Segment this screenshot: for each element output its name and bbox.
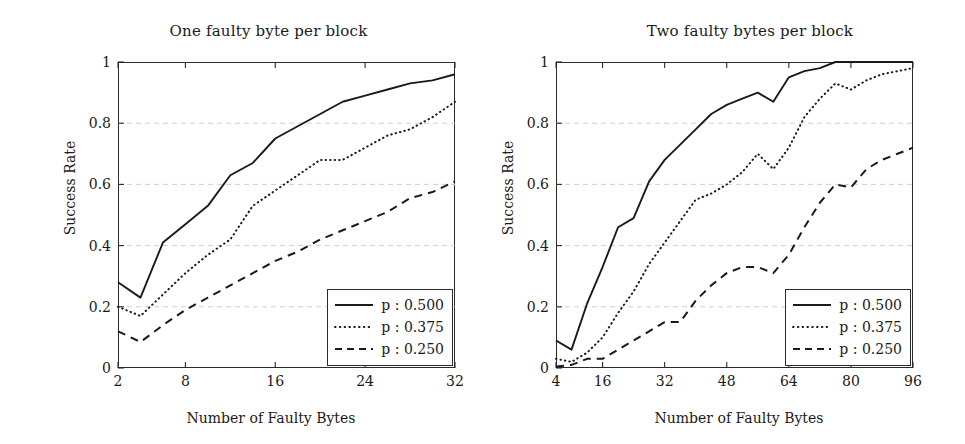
- legend-label: p : 0.500: [381, 297, 444, 313]
- y-tick-label: 1: [102, 54, 111, 70]
- legend-item: p : 0.375: [334, 316, 444, 338]
- legend-item: p : 0.500: [334, 294, 444, 316]
- y-tick-label: 0: [102, 360, 111, 376]
- legend-label: p : 0.375: [839, 319, 902, 335]
- legend-label: p : 0.250: [839, 341, 902, 357]
- x-tick-label: 8: [181, 373, 190, 389]
- x-tick-label: 16: [594, 373, 612, 389]
- x-tick-label: 16: [266, 373, 284, 389]
- y-tick-label: 0.2: [527, 299, 549, 315]
- y-tick-label: 0.8: [527, 115, 549, 131]
- y-axis-label: Success Rate: [62, 108, 78, 268]
- gridlines: [556, 123, 913, 307]
- plot-area: 00.20.40.60.81 4163248648096 p : 0.500 p…: [556, 62, 913, 368]
- y-tick-label: 0.2: [89, 299, 111, 315]
- y-tick-label: 0: [540, 360, 549, 376]
- y-tick-label: 0.4: [89, 238, 111, 254]
- legend-line-dashed-icon: [792, 343, 832, 355]
- x-tick-label: 64: [780, 373, 798, 389]
- y-tick-label: 0.4: [527, 238, 549, 254]
- x-tick-label: 24: [356, 373, 374, 389]
- legend-item: p : 0.250: [334, 338, 444, 360]
- gridlines: [118, 123, 455, 307]
- panel-title: One faulty byte per block: [0, 22, 482, 40]
- legend-line-solid-icon: [792, 299, 832, 311]
- legend: p : 0.500 p : 0.375 p : 0.250: [327, 289, 453, 366]
- y-axis-label: Success Rate: [500, 108, 516, 268]
- legend-label: p : 0.375: [381, 319, 444, 335]
- x-tick-label: 32: [656, 373, 674, 389]
- legend-item: p : 0.375: [792, 316, 902, 338]
- panel-title: Two faulty bytes per block: [483, 22, 965, 40]
- y-tick-label: 0.6: [527, 176, 549, 192]
- legend-line-dotted-icon: [792, 321, 832, 333]
- x-tick-label: 2: [114, 373, 123, 389]
- legend-item: p : 0.500: [792, 294, 902, 316]
- panel-one-faulty-byte: One faulty byte per block Success Rate N…: [0, 0, 482, 444]
- legend-line-solid-icon: [334, 299, 374, 311]
- legend-item: p : 0.250: [792, 338, 902, 360]
- legend-line-dashed-icon: [334, 343, 374, 355]
- x-tick-label: 32: [446, 373, 464, 389]
- figure-two-panel-line-charts: One faulty byte per block Success Rate N…: [0, 0, 965, 444]
- x-axis-label: Number of Faulty Bytes: [0, 410, 482, 426]
- plot-area: 00.20.40.60.81 28162432 p : 0.500 p : 0.…: [118, 62, 455, 368]
- legend-label: p : 0.250: [381, 341, 444, 357]
- x-tick-label: 80: [842, 373, 860, 389]
- legend-label: p : 0.500: [839, 297, 902, 313]
- y-tick-label: 0.6: [89, 176, 111, 192]
- series-line-dotted: [118, 102, 455, 316]
- series-line-solid: [118, 74, 455, 297]
- y-tick-label: 0.8: [89, 115, 111, 131]
- x-tick-label: 48: [718, 373, 736, 389]
- y-tick-label: 1: [540, 54, 549, 70]
- x-axis-label: Number of Faulty Bytes: [483, 410, 965, 426]
- legend-line-dotted-icon: [334, 321, 374, 333]
- x-tick-label: 4: [552, 373, 561, 389]
- legend: p : 0.500 p : 0.375 p : 0.250: [785, 289, 911, 366]
- x-tick-label: 96: [904, 373, 922, 389]
- panel-two-faulty-bytes: Two faulty bytes per block Success Rate …: [483, 0, 965, 444]
